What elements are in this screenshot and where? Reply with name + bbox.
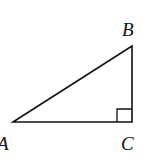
triangle-diagram: B A C	[0, 0, 150, 160]
vertex-label-c: C	[121, 133, 134, 154]
vertex-label-a: A	[0, 133, 9, 154]
right-angle-marker	[117, 109, 132, 122]
triangle-abc	[13, 46, 132, 122]
vertex-label-b: B	[122, 19, 134, 40]
